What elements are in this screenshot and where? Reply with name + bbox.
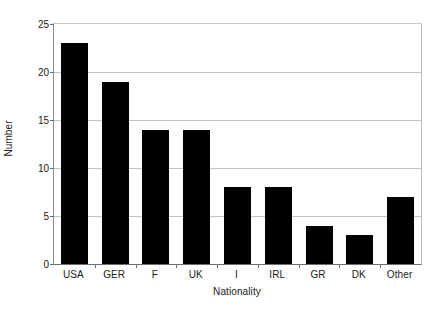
x-axis-tick-mark bbox=[380, 264, 381, 268]
bar-chart: Number 0510152025 USAGERFUKIIRLGRDKOther… bbox=[0, 0, 443, 311]
bar bbox=[61, 43, 88, 264]
x-axis-tick-mark bbox=[217, 264, 218, 268]
bar bbox=[387, 197, 414, 264]
bar bbox=[224, 187, 251, 264]
plot-area: 0510152025 bbox=[53, 23, 422, 265]
x-axis-tick-mark bbox=[136, 264, 137, 268]
x-axis-tick-label: IRL bbox=[257, 269, 298, 280]
x-axis-tick-mark bbox=[95, 264, 96, 268]
bar bbox=[102, 82, 129, 264]
x-axis-tick-label: F bbox=[135, 269, 176, 280]
y-axis-tick-label: 10 bbox=[21, 163, 49, 174]
x-axis-tick-label: DK bbox=[338, 269, 379, 280]
bar-series bbox=[54, 24, 421, 264]
bar bbox=[183, 130, 210, 264]
x-axis-tick-label: USA bbox=[53, 269, 94, 280]
y-axis-tick-label: 0 bbox=[21, 259, 49, 270]
x-axis-tick-mark bbox=[176, 264, 177, 268]
x-axis-tick-label: I bbox=[216, 269, 257, 280]
x-axis-tick-mark bbox=[258, 264, 259, 268]
y-axis-tick-label: 25 bbox=[21, 19, 49, 30]
x-axis-tick-label: GER bbox=[94, 269, 135, 280]
x-axis-tick-mark bbox=[299, 264, 300, 268]
x-axis-tick-label: UK bbox=[175, 269, 216, 280]
x-axis-tick-label: GR bbox=[298, 269, 339, 280]
bar bbox=[346, 235, 373, 264]
y-axis-title: Number bbox=[3, 109, 14, 169]
bar bbox=[306, 226, 333, 264]
y-axis-tick-label: 15 bbox=[21, 115, 49, 126]
bar bbox=[142, 130, 169, 264]
y-axis-tick-label: 5 bbox=[21, 211, 49, 222]
x-axis-tick-label: Other bbox=[379, 269, 420, 280]
x-axis-tick-mark bbox=[339, 264, 340, 268]
y-axis-tick-mark bbox=[50, 264, 54, 265]
x-axis-title: Nationality bbox=[53, 286, 421, 297]
bar bbox=[265, 187, 292, 264]
y-axis-tick-label: 20 bbox=[21, 67, 49, 78]
